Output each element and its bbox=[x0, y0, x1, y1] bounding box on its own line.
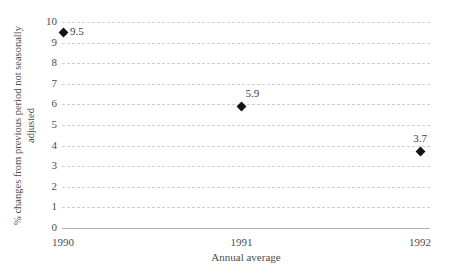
gridline bbox=[62, 63, 430, 64]
data-point-label: 5.9 bbox=[246, 87, 260, 100]
plot-area: 9.55.93.7 bbox=[62, 22, 430, 228]
y-tick-label: 1 bbox=[0, 200, 57, 213]
x-axis-line bbox=[62, 228, 430, 229]
gridline bbox=[62, 187, 430, 188]
data-point-label: 3.7 bbox=[413, 132, 427, 145]
gridline bbox=[62, 125, 430, 126]
y-tick-label: 5 bbox=[0, 118, 57, 131]
gridline bbox=[62, 166, 430, 167]
gridline bbox=[62, 146, 430, 147]
y-tick-label: 3 bbox=[0, 159, 57, 172]
gridline bbox=[62, 207, 430, 208]
x-axis-title: Annual average bbox=[62, 251, 430, 264]
gridline bbox=[62, 22, 430, 23]
data-point-marker bbox=[237, 102, 247, 112]
y-tick-label: 8 bbox=[0, 56, 57, 69]
data-point-label: 9.5 bbox=[70, 25, 84, 38]
y-tick-label: 0 bbox=[0, 221, 57, 234]
y-tick-label: 2 bbox=[0, 180, 57, 193]
scatter-chart-figure: % changes from previous period not seaso… bbox=[0, 0, 451, 280]
y-tick-label: 7 bbox=[0, 77, 57, 90]
data-point-marker bbox=[415, 147, 425, 157]
gridline bbox=[62, 84, 430, 85]
y-tick-label: 9 bbox=[0, 36, 57, 49]
x-tick-label: 1992 bbox=[398, 236, 442, 249]
data-point-marker bbox=[58, 27, 68, 37]
x-tick-label: 1990 bbox=[41, 236, 85, 249]
y-tick-label: 6 bbox=[0, 97, 57, 110]
gridline bbox=[62, 43, 430, 44]
y-tick-label: 10 bbox=[0, 15, 57, 28]
x-tick-label: 1991 bbox=[220, 236, 264, 249]
y-tick-label: 4 bbox=[0, 139, 57, 152]
